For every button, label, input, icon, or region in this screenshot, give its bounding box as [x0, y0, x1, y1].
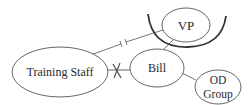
node-od-group-label-line2: Group: [203, 88, 233, 101]
node-vp-label: VP: [178, 18, 195, 33]
node-od-group-label-line1: OD: [210, 74, 227, 86]
node-vp: VP: [162, 8, 210, 42]
node-od-group: OD Group: [195, 70, 241, 104]
relationship-diagram: VP Training Staff Bill OD Group: [0, 0, 252, 105]
edge-training-staff-bill: [108, 63, 130, 78]
node-bill-label: Bill: [148, 61, 167, 75]
node-bill: Bill: [130, 49, 184, 87]
node-training-staff: Training Staff: [12, 47, 108, 97]
node-training-staff-label: Training Staff: [26, 65, 93, 79]
